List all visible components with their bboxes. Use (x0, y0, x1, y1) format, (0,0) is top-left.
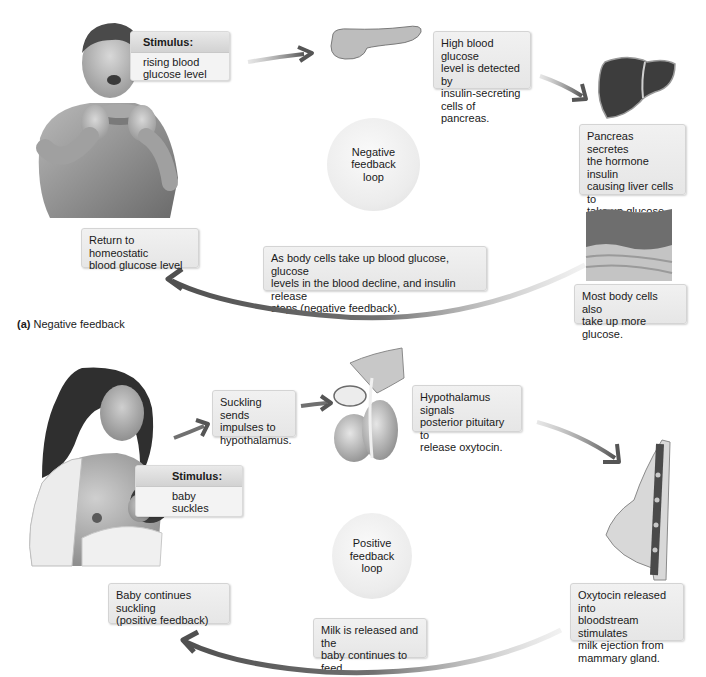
negative-feedback-loop-label: Negative feedback loop (327, 118, 420, 211)
step-box-baby-continues: Baby continues suckling (positive feedba… (108, 583, 230, 624)
liver-illustration (595, 52, 677, 120)
arrow-right-icon (299, 394, 335, 414)
step-box-return-homeostatic: Return to homeostatic blood glucose leve… (81, 228, 199, 268)
stimulus-box-negative: Stimulus: rising blood glucose level (130, 31, 230, 81)
step-box-insulin-secreted: Pancreas secretes the hormone insulin ca… (579, 124, 686, 195)
arrow-up-right-icon (172, 418, 212, 442)
return-arrow-icon (176, 628, 566, 677)
mammary-gland-illustration (604, 440, 674, 580)
step-box-cells-take-glucose: Most body cells also take up more glucos… (574, 284, 687, 324)
stimulus-heading: Stimulus: (131, 32, 229, 53)
stimulus-heading: Stimulus: (136, 466, 242, 487)
hypothalamus-pituitary-illustration (332, 348, 412, 468)
arrow-down-right-icon (538, 72, 590, 104)
step-box-glucose-detected: High blood glucose level is detected by … (433, 31, 531, 89)
body-tissue-illustration (586, 207, 672, 281)
arrow-right-icon (246, 44, 316, 68)
stimulus-text: rising blood glucose level (131, 53, 229, 82)
caption-negative-feedback: (a) Negative feedback (17, 318, 125, 330)
return-arrow-icon (160, 255, 590, 325)
step-box-milk-ejection: Oxytocin released into bloodstream stimu… (570, 583, 684, 641)
positive-feedback-loop-label: Positive feedback loop (332, 513, 412, 599)
stimulus-text: baby suckles at nipple (136, 487, 242, 518)
step-box-suckling-impulses: Suckling sends impulses to hypothalamus. (212, 390, 296, 437)
stimulus-box-positive: Stimulus: baby suckles at nipple (135, 465, 243, 517)
pancreas-illustration (325, 24, 425, 62)
step-box-release-oxytocin: Hypothalamus signals posterior pituitary… (412, 385, 522, 432)
